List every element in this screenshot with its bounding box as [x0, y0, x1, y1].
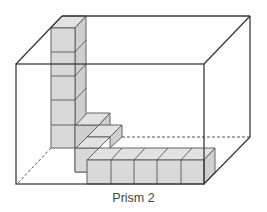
- prism-diagram: [0, 0, 267, 212]
- cube-front-row: [87, 148, 215, 184]
- figure-caption: Prism 2: [0, 191, 267, 205]
